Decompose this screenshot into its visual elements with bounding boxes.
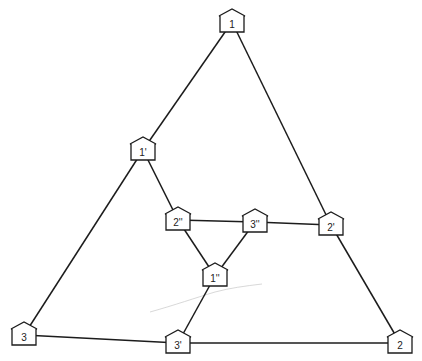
node-label: 1 [229,19,235,30]
node-label: 1'' [210,273,219,284]
node-label: 3 [21,332,27,343]
house-node-n1pp: 1'' [202,263,228,286]
edges-layer [24,22,400,343]
house-node-n2pp: 2'' [165,207,191,230]
edge-n1-n1p [143,22,232,150]
faint-pencil-curve [150,284,262,312]
nodes-layer: 11'2''3''2'1''33'2 [11,9,413,353]
house-node-n3pp: 3'' [242,209,268,232]
triangle-graph-diagram: 11'2''3''2'1''33'2 [0,0,422,361]
node-label: 3' [174,340,182,351]
node-label: 2' [327,222,335,233]
house-node-n1p: 1' [130,137,156,160]
edge-n1p-n3 [24,150,143,335]
node-label: 2 [397,340,403,351]
house-node-n3p: 3' [165,330,191,353]
house-node-n1: 1 [219,9,245,32]
node-label: 2'' [173,217,182,228]
edge-n3-n3p [24,335,178,343]
edge-n1-n2p [232,22,331,225]
node-label: 1' [139,147,147,158]
house-node-n2: 2 [387,330,413,353]
node-label: 3'' [250,219,259,230]
house-node-n3: 3 [11,322,37,345]
edge-n2p-n2 [331,225,400,343]
house-node-n2p: 2' [318,212,344,235]
